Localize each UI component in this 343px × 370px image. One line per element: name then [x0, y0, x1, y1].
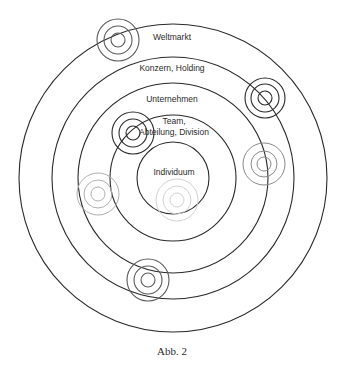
label-konzern-holding: Konzern, Holding: [139, 63, 204, 73]
target-unternehmen-bottom-icon: [127, 259, 169, 301]
figure-caption: Abb. 2: [157, 345, 187, 357]
label-team-line1: Team,: [162, 116, 185, 126]
target-konzern-left-icon: [77, 173, 119, 215]
target-individuum-icon: [156, 179, 198, 221]
label-individuum: Individuum: [153, 167, 194, 177]
ring-unternehmen: [78, 83, 268, 273]
target-weltmarkt-icon: [97, 19, 139, 61]
concentric-organization-diagram: Weltmarkt Konzern, Holding Unternehmen T…: [0, 0, 343, 370]
target-konzern-right-icon: [245, 78, 285, 118]
label-weltmarkt: Weltmarkt: [153, 32, 192, 42]
target-markers: [77, 19, 285, 301]
ring-labels: Weltmarkt Konzern, Holding Unternehmen T…: [139, 32, 209, 177]
label-unternehmen: Unternehmen: [146, 94, 198, 104]
label-team-line2: Abteilung, Division: [139, 127, 209, 137]
